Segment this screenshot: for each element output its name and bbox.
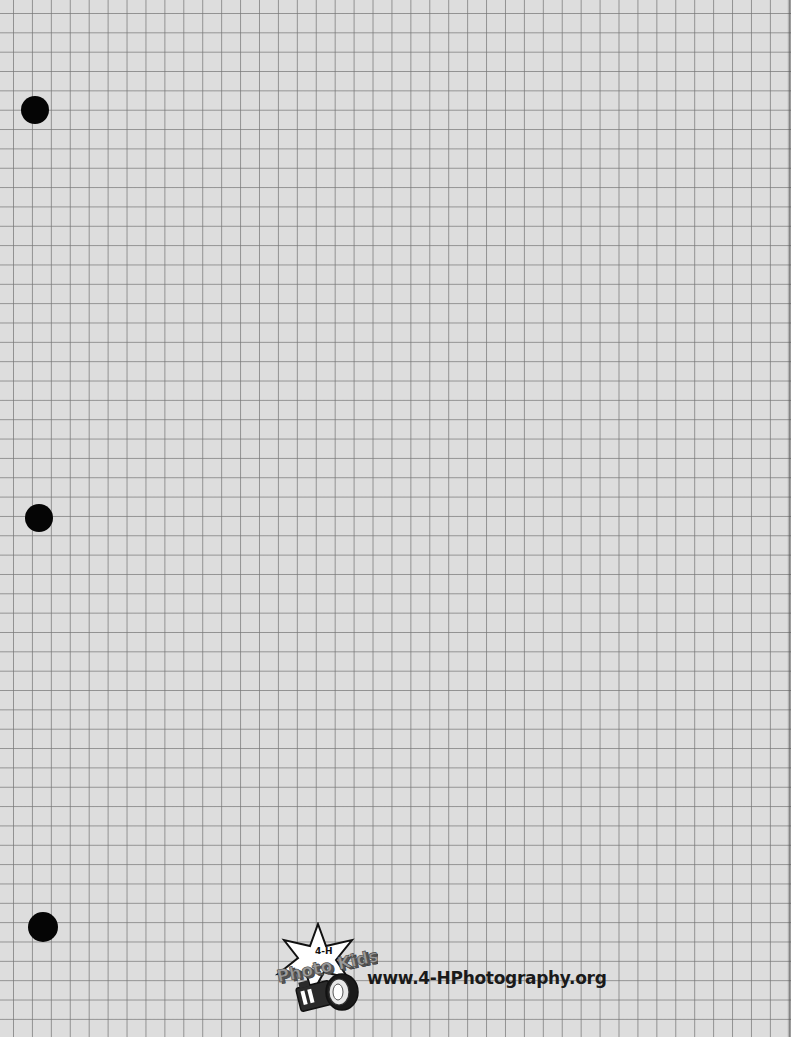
page-edge-shadow xyxy=(787,0,791,1037)
punch-hole-bottom xyxy=(28,912,58,942)
graph-paper xyxy=(0,0,791,1037)
website-url: www.4-HPhotography.org xyxy=(367,968,607,988)
photo-kids-logo: 4-H Photo Kids Photo Kids xyxy=(268,922,378,1014)
punch-hole-top xyxy=(21,96,49,124)
punch-hole-middle xyxy=(25,504,53,532)
